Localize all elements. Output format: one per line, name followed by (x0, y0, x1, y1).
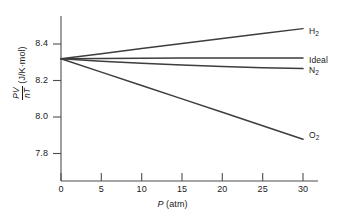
x-tick-label-10: 10 (132, 184, 152, 194)
x-tick-label-30: 30 (293, 184, 313, 194)
x-tick-label-20: 20 (212, 184, 232, 194)
y-axis-title-units: (J/K·mol) (17, 46, 27, 83)
x-axis-title-units: (atm) (166, 199, 188, 209)
series-line-o (61, 59, 303, 140)
series-label-h2-subscript: 2 (315, 30, 319, 37)
x-tick-label-5: 5 (91, 184, 111, 194)
series-label-o2: O2 (309, 130, 319, 140)
gas-compressibility-chart: 8.4 8.2 8.0 7.8 0 5 10 15 20 25 30 H2 Id… (0, 0, 345, 219)
x-axis-ticks (61, 173, 303, 181)
x-tick-label-15: 15 (172, 184, 192, 194)
y-axis-ticks (53, 44, 61, 154)
series-line-h (61, 29, 303, 59)
series-line-n (61, 59, 303, 69)
series-label-n2-subscript: 2 (315, 69, 319, 76)
series-label-h2: H2 (309, 26, 319, 36)
y-axis-title-denominator: nT (23, 87, 32, 99)
y-axis-title-fraction: PV nT (12, 86, 31, 100)
series-label-ideal: Ideal (309, 55, 328, 65)
x-tick-label-25: 25 (253, 184, 273, 194)
x-axis-title: P (atm) (0, 199, 345, 209)
y-axis-title-numerator: PV (12, 86, 21, 100)
series-lines (61, 29, 303, 140)
y-tick-label-7.8: 7.8 (22, 148, 48, 158)
series-label-ideal-text: Ideal (309, 55, 328, 65)
x-axis-title-symbol: P (157, 199, 163, 209)
x-tick-label-0: 0 (51, 184, 71, 194)
series-label-n2: N2 (309, 65, 319, 75)
series-label-o2-subscript: 2 (316, 134, 320, 141)
series-label-o2-text: O (309, 130, 316, 140)
series-line-ideal (61, 58, 303, 59)
y-axis-title: PV nT (J/K·mol) (11, 13, 33, 133)
